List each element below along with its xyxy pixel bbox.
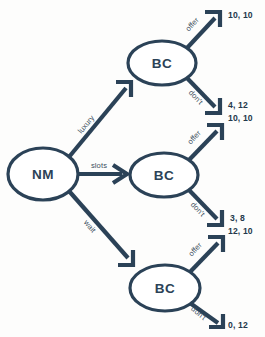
node-bc-luxury[interactable]: BC xyxy=(128,41,196,85)
edge-slots[interactable]: slots xyxy=(77,161,127,183)
edge-wait-offer[interactable]: offer xyxy=(187,237,223,272)
node-bc-slots[interactable]: BC xyxy=(130,153,198,197)
edge-luxury-dont-label: don't xyxy=(187,88,206,107)
edge-slots-dont-label: don't xyxy=(189,200,208,219)
payoff-slots-dont: 3, 8 xyxy=(230,213,245,223)
payoff-luxury-offer: 10, 10 xyxy=(228,10,253,20)
edge-luxury[interactable]: luxury xyxy=(69,82,131,157)
edge-slots-label: slots xyxy=(91,161,107,170)
tree-canvas: NM luxury slots wait BC xyxy=(0,0,265,337)
edge-luxury-offer[interactable]: offer xyxy=(184,12,220,48)
edge-wait-dont-label: don't xyxy=(189,304,208,322)
edge-slots-offer-label: offer xyxy=(186,128,203,146)
edge-wait-offer-label: offer xyxy=(187,240,204,258)
edge-wait-line xyxy=(69,191,128,258)
edge-luxury-line xyxy=(69,88,126,157)
game-tree-diagram: NM luxury slots wait BC xyxy=(0,0,265,337)
edge-wait-dont[interactable]: don't xyxy=(189,303,223,327)
payoff-wait-offer: 12, 10 xyxy=(228,226,253,236)
edge-wait[interactable]: wait xyxy=(69,191,133,265)
edge-luxury-dont[interactable]: don't xyxy=(187,78,220,113)
node-bc-wait-label: BC xyxy=(155,281,175,296)
node-nm-label: NM xyxy=(32,167,54,182)
edge-slots-dont[interactable]: don't xyxy=(189,190,222,225)
edge-luxury-offer-label: offer xyxy=(184,15,201,33)
payoff-luxury-dont: 4, 12 xyxy=(228,100,248,110)
node-nm[interactable]: NM xyxy=(8,148,78,200)
edge-slots-offer[interactable]: offer xyxy=(186,125,222,160)
payoff-slots-offer: 10, 10 xyxy=(228,113,253,123)
payoff-wait-dont: 0, 12 xyxy=(228,320,248,330)
node-bc-slots-label: BC xyxy=(154,168,174,183)
node-bc-luxury-label: BC xyxy=(152,56,172,71)
